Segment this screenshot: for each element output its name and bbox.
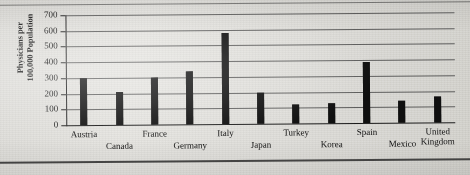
y-tick-label: 300 [32, 73, 58, 82]
x-tick-label: Italy [198, 128, 252, 138]
y-tick-mark [61, 94, 66, 95]
y-tick-label: 100 [32, 105, 58, 114]
x-tick-label: Japan [234, 140, 288, 150]
y-tick-mark [61, 78, 66, 79]
page-rule-top [0, 1, 470, 6]
y-tick-label: 400 [32, 58, 58, 67]
bar [399, 101, 406, 123]
bar [80, 78, 87, 125]
y-tick-mark [61, 62, 66, 63]
y-tick-mark [60, 15, 65, 16]
x-tick-label: United Kingdom [411, 126, 465, 146]
gridlines [65, 12, 454, 15]
y-axis-tick-labels: 7006005004003002001000 [27, 1, 58, 175]
x-tick-label: France [128, 128, 182, 138]
bar [116, 92, 123, 125]
gridline [66, 59, 455, 63]
y-tick-label: 600 [32, 26, 58, 35]
bar [292, 105, 299, 124]
bar [363, 62, 370, 123]
bar [186, 71, 193, 124]
x-tick-label: Spain [340, 127, 394, 137]
y-tick-mark [61, 47, 66, 48]
x-tick-label: Canada [92, 141, 146, 151]
bar [221, 33, 229, 124]
x-tick-label: Korea [305, 139, 359, 149]
y-tick-mark [61, 31, 66, 32]
y-tick-mark [61, 110, 66, 111]
bar [434, 96, 441, 122]
y-tick-mark [61, 125, 66, 126]
x-tick-label: Turkey [269, 127, 323, 137]
y-tick-label: 0 [32, 120, 58, 129]
gridline [66, 75, 455, 79]
x-tick-label: Germany [163, 140, 217, 150]
x-axis-tick-labels: AustriaCanadaFranceGermanyItalyJapanTurk… [66, 123, 455, 170]
y-tick-label: 700 [31, 10, 57, 19]
plot-area [65, 12, 455, 125]
gridline [66, 28, 455, 32]
gridline [65, 12, 454, 16]
bar [328, 103, 335, 123]
bar [257, 92, 264, 123]
x-tick-label: Austria [57, 129, 111, 139]
figure-container: Physicians per 100,000 Population 700600… [0, 0, 470, 175]
scanned-page: Physicians per 100,000 Population 700600… [0, 0, 470, 175]
y-tick-label: 500 [32, 42, 58, 51]
bar [151, 77, 158, 124]
y-tick-label: 200 [32, 89, 58, 98]
gridline [66, 44, 455, 48]
